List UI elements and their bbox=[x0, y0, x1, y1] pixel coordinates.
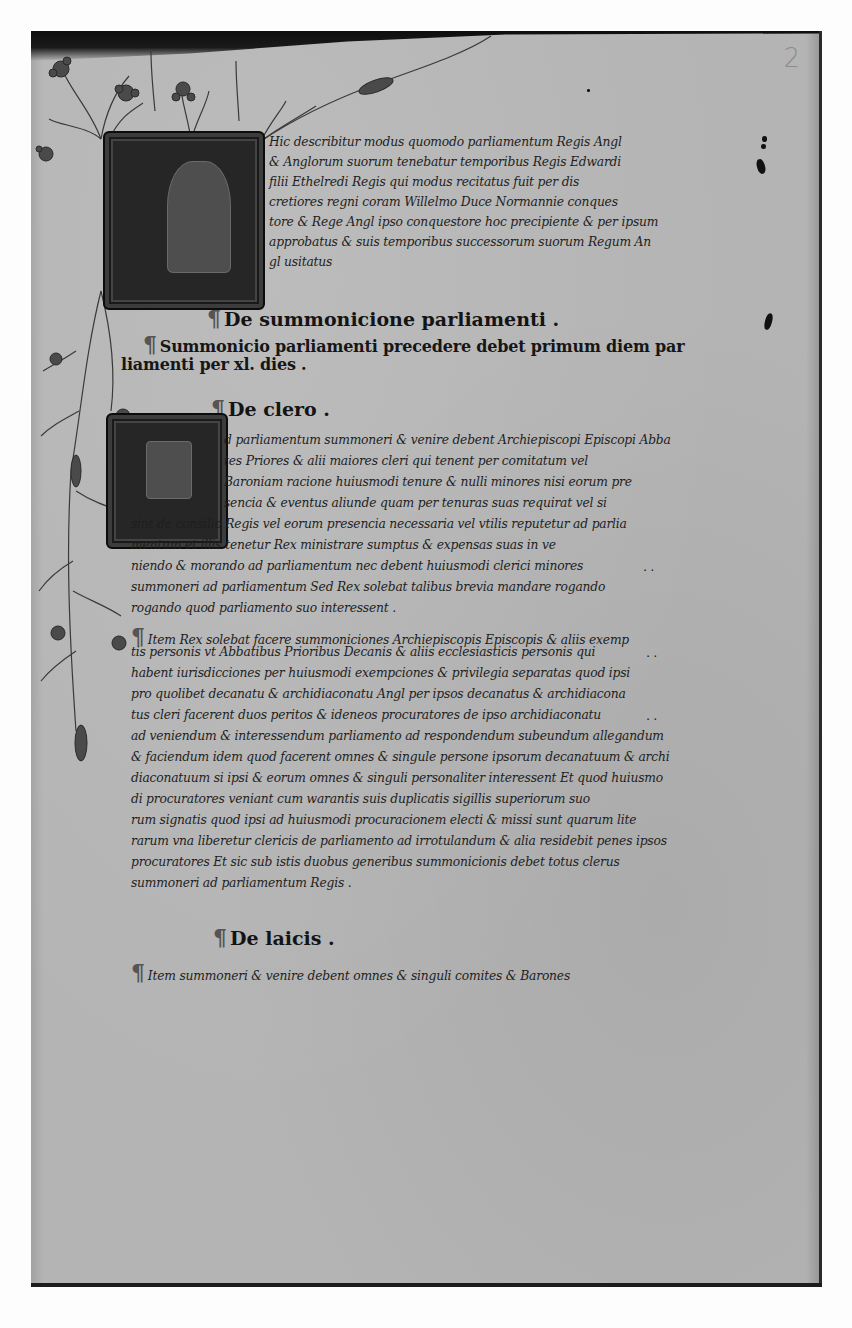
heading-text: De laicis . bbox=[230, 927, 335, 949]
margin-mark: .. bbox=[646, 645, 660, 660]
pilcrow-icon: ¶ bbox=[207, 305, 221, 331]
text-line: approbatus & suis temporibus successorum… bbox=[269, 235, 651, 249]
text-line: habent iurisdicciones per huiusmodi exem… bbox=[131, 666, 630, 680]
text-line: summoneri ad parliamentum Regis . bbox=[131, 876, 351, 890]
margin-mark: .. bbox=[643, 559, 657, 574]
text-line: Baroniam racione huiusmodi tenure & null… bbox=[224, 475, 632, 489]
heading-text: De summonicione parliamenti . bbox=[224, 308, 559, 330]
text-line: di procuratores veniant cum warantis sui… bbox=[131, 792, 590, 806]
text-line: d parliamentum summoneri & venire debent… bbox=[224, 433, 671, 447]
text-line: niendo & morando ad parliamentum nec deb… bbox=[131, 559, 583, 573]
text-line: & faciendum idem quod facerent omnes & s… bbox=[131, 750, 669, 764]
section-heading: ¶De summonicione parliamenti . bbox=[207, 305, 559, 331]
text-line: ad veniendum & interessendum parliamento… bbox=[131, 729, 664, 743]
line-text: Item summoneri & venire debent omnes & s… bbox=[148, 969, 570, 983]
text-line: ¶Summonicio parliamenti precedere debet … bbox=[143, 331, 684, 357]
text-line: liamenti per xl. dies . bbox=[121, 355, 306, 374]
text-line: gl usitatus bbox=[269, 255, 332, 269]
text-line: tis personis vt Abbatibus Prioribus Deca… bbox=[131, 645, 595, 659]
pilcrow-icon: ¶ bbox=[213, 924, 227, 950]
text-line: rarum vna liberetur clericis de parliame… bbox=[131, 834, 667, 848]
text-line: sint de consilio Regis vel eorum presenc… bbox=[131, 517, 627, 531]
text-line: rogando quod parliamento suo interessent… bbox=[131, 601, 396, 615]
section-heading: ¶De clero . bbox=[211, 395, 330, 421]
text-line: tore & Rege Angl ipso conquestore hoc pr… bbox=[269, 215, 658, 229]
text-line: procuratores Et sic sub istis duobus gen… bbox=[131, 855, 620, 869]
pilcrow-icon: ¶ bbox=[131, 959, 145, 985]
text-line: Hic describitur modus quomodo parliament… bbox=[269, 135, 622, 149]
text-line: tes Priores & alii maiores cleri qui ten… bbox=[224, 454, 588, 468]
text-line: pro quolibet decanatu & archidiaconatu A… bbox=[131, 687, 626, 701]
margin-mark: .. bbox=[646, 708, 660, 723]
text-line: filii Ethelredi Regis qui modus recitatu… bbox=[269, 175, 579, 189]
text-line: & Anglorum suorum tenebatur temporibus R… bbox=[269, 155, 621, 169]
initial-panel bbox=[146, 441, 192, 499]
pilcrow-icon: ¶ bbox=[143, 331, 157, 357]
text-line: ¶Item summoneri & venire debent omnes & … bbox=[131, 959, 570, 985]
text-line: mentum et illis tenetur Rex ministrare s… bbox=[131, 538, 556, 552]
text-line: cretiores regni coram Willelmo Duce Norm… bbox=[269, 195, 618, 209]
line-text: Summonicio parliamenti precedere debet p… bbox=[160, 337, 685, 356]
text-line: summoneri ad parliamentum Sed Rex soleba… bbox=[131, 580, 605, 594]
illuminated-initial-h bbox=[103, 131, 265, 310]
text-line: sencia & eventus aliunde quam per tenura… bbox=[224, 496, 607, 510]
text-line: rum signatis quod ipsi ad huiusmodi proc… bbox=[131, 813, 636, 827]
heading-text: De clero . bbox=[228, 398, 330, 420]
text-line: tus cleri facerent duos peritos & ideneo… bbox=[131, 708, 601, 722]
initial-panel bbox=[167, 161, 231, 273]
section-heading: ¶De laicis . bbox=[213, 924, 335, 950]
manuscript-page: 2 bbox=[31, 31, 822, 1287]
text-line: diaconatuum si ipsi & eorum omnes & sing… bbox=[131, 771, 663, 785]
